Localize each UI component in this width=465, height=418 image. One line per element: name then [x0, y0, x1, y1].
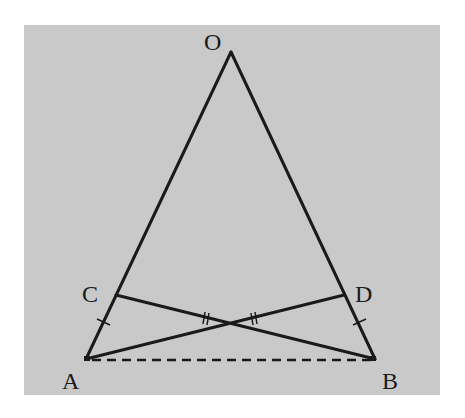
diagram-background	[24, 25, 440, 395]
label-A: A	[62, 368, 80, 394]
label-O: O	[204, 29, 221, 55]
vertex-B-marker	[370, 356, 376, 361]
geometry-diagram: O C D A B	[0, 0, 465, 418]
label-D: D	[355, 281, 372, 307]
label-B: B	[382, 368, 398, 394]
vertex-A-marker	[84, 356, 90, 361]
label-C: C	[82, 281, 98, 307]
